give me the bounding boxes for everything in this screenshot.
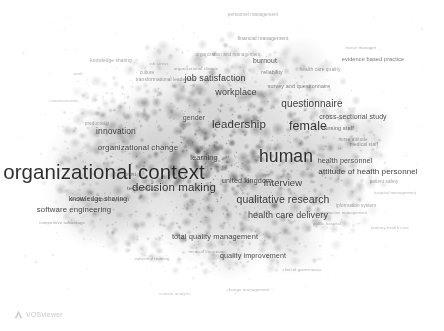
term-label[interactable]: change management [227,288,270,292]
term-label[interactable]: organization and management [196,53,261,58]
term-label[interactable]: evidence based practice [342,57,405,63]
term-label[interactable]: gender [183,114,205,121]
vosviewer-term-map[interactable]: organizational contexthumanfemaleleaders… [0,0,444,331]
term-label[interactable]: workplace [215,88,256,97]
term-label[interactable]: productivity [85,122,109,127]
term-label[interactable]: clinical governance [282,268,321,272]
term-label[interactable]: nurse manager [346,46,377,50]
term-label[interactable]: leadership [212,119,266,131]
vosviewer-logo[interactable]: VOSviewer [14,310,63,319]
term-label[interactable]: burnout [253,58,277,65]
term-label[interactable]: health care delivery [248,211,328,220]
vosviewer-logo-label: VOSviewer [26,311,63,318]
term-label[interactable]: medical literature [188,250,223,254]
term-label[interactable]: health care quality [300,68,341,73]
term-label[interactable]: communication [49,99,78,103]
term-label[interactable]: nurse attitude [338,138,367,143]
term-label[interactable]: information management [319,211,368,215]
vosviewer-triangle-icon [14,310,23,319]
term-label[interactable]: job stress [150,62,169,66]
term-label[interactable]: technology [127,185,157,191]
term-label[interactable]: united kingdom [222,177,272,184]
term-label[interactable]: competitive advantage [39,221,85,225]
term-label[interactable]: culture [140,71,155,76]
term-label[interactable]: questionnaire [281,99,342,109]
term-label[interactable]: innovation [96,127,136,136]
term-label[interactable]: information system [336,204,376,209]
term-label[interactable]: transformational leadership [136,78,197,83]
term-label[interactable]: trust [126,172,137,177]
term-label[interactable]: decision support system [69,197,129,202]
term-label[interactable]: organizational climate [174,67,219,71]
term-label[interactable]: medical staff [350,143,378,148]
term-label[interactable]: knowledge sharing [90,59,132,64]
term-label[interactable]: survey and questionnaire [268,84,331,89]
term-label[interactable]: quality improvement [220,252,286,259]
term-label[interactable]: human [259,148,313,166]
term-label[interactable]: total quality management [172,233,258,241]
term-label[interactable]: qualitative research [236,194,329,205]
term-label[interactable]: industrial training [134,257,169,261]
term-label[interactable]: work [73,72,82,76]
term-label[interactable]: learning [190,154,218,162]
term-label[interactable]: attitude of health personnel [318,168,417,176]
term-label[interactable]: personnel management [228,13,278,18]
term-label[interactable]: hospital management [374,191,416,195]
term-label[interactable]: cross-sectional study [319,113,386,120]
term-label[interactable]: financial management [238,36,289,41]
term-label[interactable]: nursing staff [322,126,354,132]
term-label[interactable]: patient safety [370,180,399,185]
term-label[interactable]: public hospital [313,222,341,226]
term-label[interactable]: software engineering [37,206,111,214]
term-label[interactable]: organizational change [98,144,178,152]
term-label[interactable]: content analysis [159,292,191,296]
term-label[interactable]: reliability [261,70,282,75]
term-label[interactable]: health personnel [318,157,373,164]
term-label[interactable]: primary health care [371,226,409,230]
term-label[interactable]: organizational context [3,162,205,183]
